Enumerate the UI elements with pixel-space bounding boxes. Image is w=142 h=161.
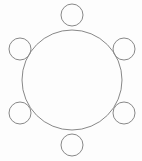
- diagram-canvas: [0, 0, 142, 161]
- canvas-background: [0, 0, 142, 161]
- circle-arrangement-diagram: [0, 0, 142, 161]
